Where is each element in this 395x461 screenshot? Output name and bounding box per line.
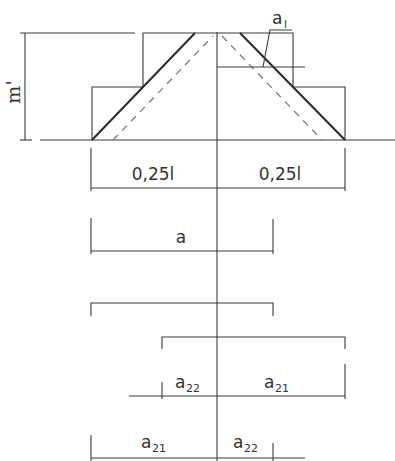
bracket-upper (91, 303, 273, 316)
quarter-right-label: 0,25l (259, 164, 302, 184)
right-dashed-diagonal (222, 36, 322, 140)
a1-label: a (272, 8, 282, 28)
bracket-lower (162, 337, 345, 349)
left-dashed-diagonal (113, 36, 213, 140)
quarter-left-label: 0,25l (132, 164, 175, 184)
a22-top-label-sub: 22 (186, 382, 200, 395)
structural-diagram: m' a l 0,25l 0,25l a a 22 a 21 a 21 a 22 (0, 0, 395, 461)
a21-top-label-sub: 21 (275, 382, 289, 395)
a22-top-label: a (175, 372, 185, 392)
m-prime-label: m' (2, 80, 24, 103)
a21-top-label: a (264, 372, 274, 392)
a22-bottom-label-sub: 22 (244, 442, 258, 455)
a22-bottom-label: a (233, 432, 243, 452)
a-label: a (176, 227, 186, 247)
a21-bottom-label-sub: 21 (152, 442, 166, 455)
a21-bottom-label: a (141, 432, 151, 452)
a1-label-sub: l (284, 18, 287, 31)
upper-box (143, 33, 293, 87)
